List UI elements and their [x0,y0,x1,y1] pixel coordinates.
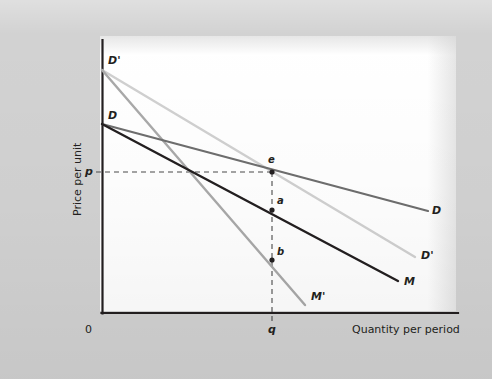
curve-M [102,124,398,281]
curve-label-D-end: D [432,205,441,216]
point-label-e: e [268,155,275,165]
origin-label: 0 [85,324,92,335]
figure-root: D' D D D' M M' e a b p q 0 Quantity per … [0,0,492,379]
x-axis-tick-label-q: q [268,324,276,335]
point-marker-a [269,207,274,212]
curve-label-Dprime-origin: D' [108,55,121,66]
point-marker-b [269,257,274,262]
curves [102,70,428,305]
point-marker-e [269,169,274,174]
curve-Dprime [102,70,415,257]
curve-label-D-origin: D [108,110,117,121]
curve-label-Dprime-end: D' [421,250,434,261]
point-label-a: a [277,196,284,206]
point-label-b: b [277,247,284,257]
curve-D [102,124,428,211]
curve-label-Mprime-end: M' [311,291,325,302]
y-axis-tick-label-p: p [85,166,93,177]
curve-Mprime [102,70,305,305]
x-axis-title: Quantity per period [352,324,460,335]
guide-lines [96,172,272,322]
curve-label-M-end: M [404,276,415,287]
y-axis-title: Price per unit [72,143,83,216]
